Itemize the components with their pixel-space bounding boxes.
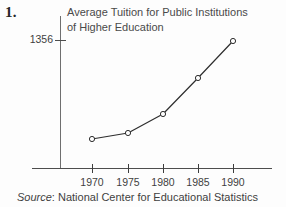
data-point-1985 — [195, 75, 200, 80]
series-markers — [89, 38, 235, 141]
chart-figure: 1. Average Tuition for Public Institutio… — [0, 0, 286, 207]
source-text: National Center for Educational Statisti… — [58, 191, 258, 203]
plot-area: 1356 19701975198019851990 — [0, 0, 286, 207]
data-series-layer — [0, 0, 286, 207]
data-point-1975 — [125, 130, 130, 135]
series-line — [92, 41, 233, 139]
source-note: Source: National Center for Educational … — [17, 190, 258, 204]
data-point-1990 — [230, 38, 235, 43]
source-separator: : — [52, 191, 55, 203]
data-point-1970 — [89, 136, 94, 141]
data-point-1980 — [160, 111, 165, 116]
source-label: Source — [17, 191, 52, 203]
